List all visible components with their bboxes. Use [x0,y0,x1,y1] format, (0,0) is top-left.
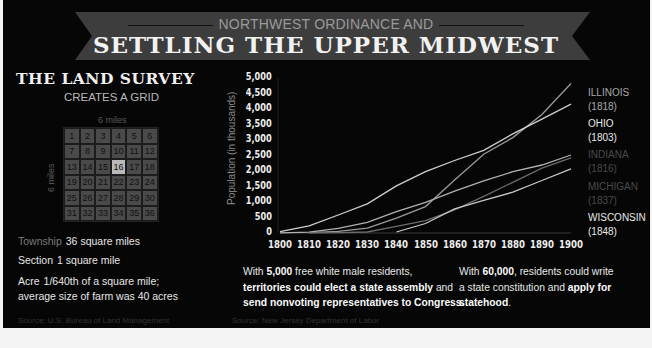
legend-item-indiana: INDIANA(1816) [588,148,629,176]
note-bold: apply for [568,282,611,293]
legend-item-michigan: MICHIGAN(1837) [588,180,638,208]
legend-admission-year: (1803) [588,131,617,145]
legend-state-name: WISCONSIN [588,211,646,225]
note-text: . [508,297,511,308]
note-bold: statehood [459,297,508,308]
series-line-wisconsin [396,169,571,232]
note-text: a state constitution and [459,282,568,293]
legend-item-wisconsin: WISCONSIN(1848) [588,211,646,239]
legend-state-name: OHIO [588,117,617,131]
legend-state-name: MICHIGAN [588,180,638,194]
note-text: With [459,266,482,277]
note-text: With [243,266,266,277]
legend-admission-year: (1818) [588,100,629,114]
series-line-illinois [309,84,571,233]
note-assembly: With 5,000 free white male residents, te… [243,264,464,311]
legend-item-illinois: ILLINOIS(1818) [588,86,629,114]
legend-admission-year: (1837) [588,194,638,208]
note-text: , residents could write [514,266,614,277]
legend-admission-year: (1816) [588,162,629,176]
legend-state-name: ILLINOIS [588,86,629,100]
note-bold: territories could elect a state assembly [243,282,433,293]
note-text: free white male residents, [292,266,412,277]
legend-item-ohio: OHIO(1803) [588,117,617,145]
note-text: and [433,282,453,293]
chart-source: Source: New Jersey Department of Labor [232,316,379,325]
note-bold: 60,000 [482,266,514,277]
series-line-michigan [309,158,571,233]
note-bold: 5,000 [266,266,292,277]
legend-admission-year: (1848) [588,225,646,239]
note-statehood: With 60,000, residents could write a sta… [459,264,614,311]
note-bold: send nonvoting representatives to Congre… [243,297,464,308]
legend-state-name: INDIANA [588,148,629,162]
